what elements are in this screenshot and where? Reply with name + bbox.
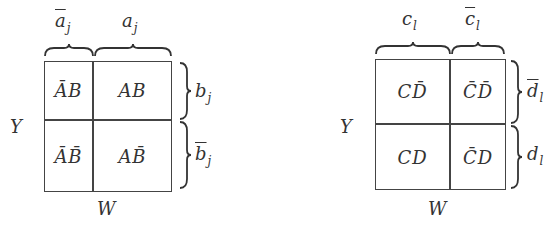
label-subscript: j (134, 21, 138, 35)
axis-label-w: W (428, 200, 447, 218)
cell-text: ĀB̄ (54, 146, 82, 167)
label-base: c (402, 8, 412, 29)
cell-r2c1: ĀB̄ (44, 120, 93, 192)
label-subscript: l (540, 154, 544, 168)
label-base: c (465, 8, 475, 29)
label-base: a (55, 10, 66, 31)
cell-r2c2: C̄D (450, 124, 506, 190)
axis-label-w: W (97, 200, 116, 218)
cell-text: CD̄ (397, 81, 427, 102)
cell-text: CD (397, 147, 427, 168)
label-base: a (122, 10, 133, 31)
label-subscript: j (208, 154, 212, 168)
label-base: b (195, 80, 207, 101)
top-label-c-bar-l: cl (465, 10, 480, 32)
cell-r1c2: C̄D̄ (450, 59, 506, 124)
cell-text: C̄D (463, 147, 493, 168)
label-subscript: l (413, 19, 417, 33)
cell-text: ĀB (54, 80, 82, 101)
brace-top-left (44, 44, 94, 58)
cell-r2c1: CD (375, 124, 450, 190)
cell-r1c1: CD̄ (375, 59, 450, 124)
right-label-d-bar-l: dl (527, 82, 543, 104)
cell-r1c2: AB (93, 61, 172, 120)
label-subscript: l (476, 19, 480, 33)
label-subscript: l (540, 91, 544, 105)
label-base: d (527, 80, 539, 101)
brace-top-right (451, 42, 505, 56)
brace-right-top (509, 60, 523, 124)
brace-top-left (375, 42, 451, 56)
axis-label-y: Y (340, 118, 352, 136)
label-subscript: j (208, 91, 212, 105)
label-base: d (527, 143, 539, 164)
brace-right-top (178, 62, 192, 120)
cell-text: C̄D̄ (463, 81, 493, 102)
top-label-a-bar-j: aj (55, 12, 70, 34)
brace-top-right (94, 44, 172, 58)
label-base: b (195, 143, 207, 164)
right-label-b-j: bj (195, 82, 211, 104)
brace-right-bottom (509, 125, 523, 189)
cell-r1c1: ĀB (44, 61, 93, 120)
axis-label-y: Y (10, 118, 22, 136)
top-label-c-l: cl (402, 10, 417, 32)
cell-r2c2: AB̄ (93, 120, 172, 192)
right-label-b-bar-j: bj (195, 145, 211, 167)
cell-text: AB̄ (118, 146, 146, 167)
cell-text: AB (118, 80, 146, 101)
brace-right-bottom (178, 121, 192, 189)
right-label-d-l: dl (527, 145, 543, 167)
top-label-a-j: aj (122, 12, 137, 34)
label-subscript: j (67, 21, 71, 35)
